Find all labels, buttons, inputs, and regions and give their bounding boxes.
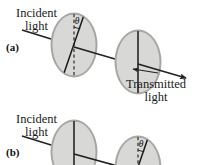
transmitted-light-label: Transmitted light (126, 78, 186, 104)
incident-light-label-b-line1: Incident (16, 112, 57, 126)
incident-light-label-b: Incident light (16, 113, 57, 139)
incident-light-label-a-line1: Incident (16, 6, 57, 20)
panel-label-b: (b) (6, 146, 19, 158)
panel-label-a: (a) (6, 41, 19, 53)
incident-light-label-a: Incident light (16, 7, 57, 33)
transmitted-light-label-line2: light (126, 91, 186, 104)
theta-symbol-a: θ (75, 16, 80, 26)
incident-light-label-a-line2: light (16, 20, 57, 33)
transmitted-light-label-line1: Transmitted (126, 77, 186, 91)
incident-light-label-b-line2: light (16, 126, 57, 139)
theta-symbol-b: θ (139, 139, 144, 149)
